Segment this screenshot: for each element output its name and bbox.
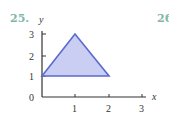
y-axis-label: y bbox=[38, 14, 44, 25]
y-tick-label-0: 0 bbox=[29, 92, 34, 103]
y-tick-label-1: 1 bbox=[29, 71, 34, 82]
triangle-region bbox=[42, 34, 109, 76]
x-tick-label-1: 1 bbox=[72, 103, 77, 114]
x-axis-label: x bbox=[151, 91, 157, 102]
y-tick-label-3: 3 bbox=[29, 29, 34, 40]
x-tick-label-2: 2 bbox=[106, 103, 111, 114]
y-tick-label-2: 2 bbox=[29, 51, 34, 62]
triangle-region-plot: y 3 2 1 0 1 2 3 x bbox=[0, 0, 169, 117]
x-tick-label-3: 3 bbox=[139, 103, 144, 114]
